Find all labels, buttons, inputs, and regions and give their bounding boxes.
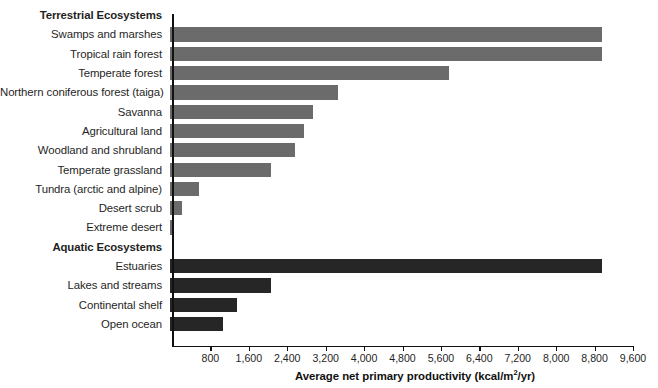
x-axis-tick-label: 5,600 <box>428 352 455 364</box>
bar-category-label: Estuaries <box>0 260 168 273</box>
x-axis-tick <box>249 346 250 351</box>
bar-category-label: Tropical rain forest <box>0 48 168 61</box>
x-axis-tick <box>556 346 557 351</box>
bar-category-label: Swamps and marshes <box>0 28 168 41</box>
bar <box>170 124 304 138</box>
x-axis-tick <box>210 346 211 351</box>
x-axis-title: Average net primary productivity (kcal/m… <box>0 368 658 382</box>
x-axis-tick-label: 9,600 <box>620 352 647 364</box>
bar-track <box>168 257 658 276</box>
bar-row: Open ocean <box>0 315 658 334</box>
bar-track <box>168 276 658 295</box>
group-header-row: Terrestrial Ecosystems <box>0 6 658 25</box>
bar-row: Woodland and shrubland <box>0 141 658 160</box>
bar-row: Northern coniferous forest (taiga) <box>0 83 658 102</box>
x-axis-tick-label: 8,800 <box>581 352 608 364</box>
bar-row: Temperate grassland <box>0 160 658 179</box>
x-axis-tick <box>595 346 596 351</box>
group-header-spacer <box>168 238 658 257</box>
bar <box>170 163 271 177</box>
bar-category-label: Open ocean <box>0 318 168 331</box>
bar-track <box>168 122 658 141</box>
x-axis-tick <box>287 346 288 351</box>
x-axis-tick <box>479 346 480 351</box>
x-axis-tick-label: 2,400 <box>274 352 301 364</box>
x-axis-tick <box>441 346 442 351</box>
bar-category-label: Extreme desert <box>0 221 168 234</box>
bar-row: Lakes and streams <box>0 276 658 295</box>
bar-row: Swamps and marshes <box>0 25 658 44</box>
bar-track <box>168 83 658 102</box>
bar <box>170 317 223 331</box>
bar <box>170 182 199 196</box>
bar <box>170 47 602 61</box>
group-header-row: Aquatic Ecosystems <box>0 238 658 257</box>
bar-track <box>168 180 658 199</box>
bar-track <box>168 25 658 44</box>
bar-track <box>168 102 658 121</box>
bar-row: Savanna <box>0 102 658 121</box>
bar-track <box>168 160 658 179</box>
x-axis-tick <box>633 346 634 351</box>
x-axis-tick <box>403 346 404 351</box>
superscript-two: 2 <box>513 368 517 377</box>
bar-category-label: Savanna <box>0 106 168 119</box>
bar-row: Estuaries <box>0 257 658 276</box>
bar <box>170 27 602 41</box>
bar-category-label: Desert scrub <box>0 202 168 215</box>
bar <box>170 105 313 119</box>
chart-rows: Terrestrial EcosystemsSwamps and marshes… <box>0 6 658 334</box>
bar-category-label: Temperate forest <box>0 67 168 80</box>
x-axis-tick-label: 800 <box>202 352 220 364</box>
x-axis-tick <box>326 346 327 351</box>
bar <box>170 278 271 292</box>
bar-track <box>168 64 658 83</box>
bar <box>170 66 449 80</box>
group-header-label: Terrestrial Ecosystems <box>0 9 168 22</box>
bar-track <box>168 295 658 314</box>
bar-row: Continental shelf <box>0 295 658 314</box>
x-axis-tick <box>364 346 365 351</box>
bar-track <box>168 141 658 160</box>
bar <box>170 143 295 157</box>
bar <box>170 85 338 99</box>
group-header-label: Aquatic Ecosystems <box>0 241 168 254</box>
bar-row: Tropical rain forest <box>0 45 658 64</box>
bar-category-label: Agricultural land <box>0 125 168 138</box>
x-axis-tick-label: 4,800 <box>389 352 416 364</box>
bar-row: Extreme desert <box>0 218 658 237</box>
x-axis-tick-label: 3,200 <box>312 352 339 364</box>
bar-row: Tundra (arctic and alpine) <box>0 180 658 199</box>
bar <box>170 259 602 273</box>
y-axis-line <box>172 14 174 347</box>
bar-track <box>168 199 658 218</box>
x-axis-tick-label: 6,400 <box>466 352 493 364</box>
x-axis-tick-label: 1,600 <box>236 352 263 364</box>
bar-category-label: Lakes and streams <box>0 279 168 292</box>
bar-category-label: Temperate grassland <box>0 164 168 177</box>
x-axis-tick-label: 8,000 <box>543 352 570 364</box>
bar-row: Agricultural land <box>0 122 658 141</box>
bar-track <box>168 315 658 334</box>
x-axis-tick-label: 4,000 <box>351 352 378 364</box>
group-header-spacer <box>168 6 658 25</box>
x-axis-tick <box>518 346 519 351</box>
bar-row: Desert scrub <box>0 199 658 218</box>
bar <box>170 298 237 312</box>
x-axis-tick-label: 7,200 <box>504 352 531 364</box>
bar-track <box>168 45 658 64</box>
bar-category-label: Northern coniferous forest (taiga) <box>0 86 168 99</box>
bar-category-label: Tundra (arctic and alpine) <box>0 183 168 196</box>
bar-category-label: Continental shelf <box>0 299 168 312</box>
bar-chart: Terrestrial EcosystemsSwamps and marshes… <box>0 0 658 388</box>
bar-row: Temperate forest <box>0 64 658 83</box>
bar-track <box>168 218 658 237</box>
x-axis-title-text: Average net primary productivity (kcal/m… <box>123 368 535 382</box>
bar-category-label: Woodland and shrubland <box>0 144 168 157</box>
